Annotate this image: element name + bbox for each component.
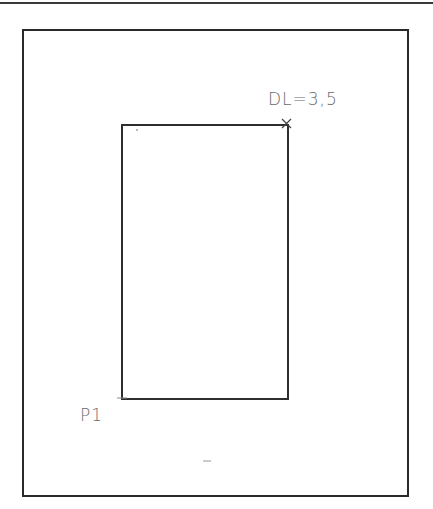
stray-dot	[136, 129, 138, 131]
x-mark-icon	[282, 119, 291, 128]
markers-layer	[0, 0, 433, 509]
dl-annotation: DL=3,5	[268, 89, 338, 109]
p1-annotation: P1	[80, 405, 103, 425]
